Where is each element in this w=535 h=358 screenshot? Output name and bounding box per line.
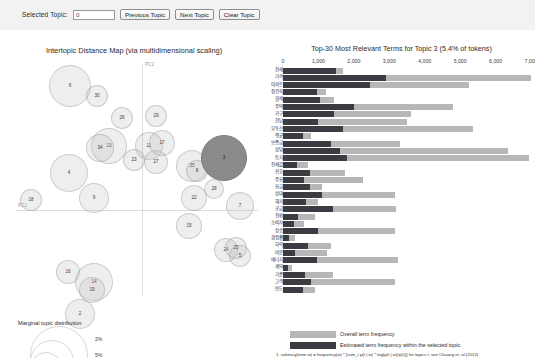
topic-bubble-28[interactable]: 28	[204, 179, 224, 199]
topic-bubble-label: 28	[211, 187, 216, 192]
within-topic-frequency-bar	[283, 75, 386, 81]
topic-bubble-30[interactable]: 30	[86, 85, 108, 107]
term-bar-row[interactable]: 마문	[268, 249, 535, 256]
term-bar-row[interactable]: 계약	[268, 264, 535, 271]
x-tick-5000: 5,000	[454, 58, 467, 64]
topic-bubble-29[interactable]: 29	[145, 105, 167, 127]
overall-frequency-bar	[283, 155, 529, 161]
term-label: 토지	[259, 155, 283, 161]
term-bar-row[interactable]: 토지	[268, 155, 535, 162]
next-topic-button[interactable]: Next Topic	[175, 9, 214, 20]
topic-bubble-18[interactable]: 18	[20, 189, 42, 211]
topic-bubble-4[interactable]: 4	[50, 154, 88, 192]
topic-bubble-34[interactable]: 34	[86, 134, 114, 162]
bar-chart-legend: Overall term frequency Estimated term fr…	[290, 330, 530, 352]
marginal-tick-5%: 5%	[95, 352, 102, 358]
topic-bubble-label: 34	[97, 146, 102, 151]
term-label: 하락	[259, 242, 283, 248]
topic-bubble-9[interactable]: 9	[79, 183, 109, 213]
term-label: 주요	[259, 177, 283, 183]
term-bar-row[interactable]: 상당	[268, 147, 535, 154]
term-bar-row[interactable]: 에너지	[268, 257, 535, 264]
term-bar-row[interactable]: 주택	[268, 103, 535, 110]
overall-frequency-bar	[283, 221, 304, 227]
term-bar-row[interactable]: 부동산	[268, 125, 535, 132]
term-bar-row[interactable]: 월세	[268, 96, 535, 103]
topic-bubble-6[interactable]: 6	[49, 65, 91, 107]
term-bar-row[interactable]: 평균	[268, 133, 535, 140]
term-bar-row[interactable]: 하락	[268, 242, 535, 249]
overall-frequency-bar	[283, 192, 395, 198]
term-bar-row[interactable]: 전세	[268, 67, 535, 74]
x-tick-4000: 4,000	[418, 58, 431, 64]
right-control-bar: Slide to adjust relevance metric:(2) λ =…	[268, 0, 535, 31]
topic-bubble-26[interactable]: 26	[111, 107, 133, 129]
term-bar-row[interactable]: 빈도	[268, 286, 535, 293]
within-topic-frequency-bar	[283, 119, 318, 125]
legend-within-swatch	[290, 342, 336, 349]
topic-bubble-3[interactable]: 3	[201, 135, 247, 181]
topic-bubble-15[interactable]: 15	[176, 213, 202, 239]
term-label: 정건축	[259, 89, 283, 95]
term-bar-row[interactable]: 상태	[268, 191, 535, 198]
within-topic-frequency-bar	[283, 250, 295, 256]
term-label: 보증금	[259, 140, 283, 146]
term-label: 상태	[259, 191, 283, 197]
term-bar-list: 전세가격아파트정건축월세주택가구전남부동산평균보증금상당토지전세값선호주요요금상…	[268, 67, 535, 293]
term-bar-row[interactable]: 기준	[268, 271, 535, 278]
term-bar-row[interactable]: 전환	[268, 213, 535, 220]
term-bar-row[interactable]: 보증금	[268, 140, 535, 147]
term-bar-row[interactable]: 아파트	[268, 82, 535, 89]
topic-bubble-label: 3	[223, 156, 226, 161]
term-bar-row[interactable]: 경정률	[268, 235, 535, 242]
topic-bubble-label: 4	[68, 171, 71, 176]
selected-topic-input[interactable]	[73, 10, 115, 20]
within-topic-frequency-bar	[283, 192, 322, 198]
x-tick-0: 0	[282, 58, 285, 64]
term-bar-row[interactable]: 공급	[268, 206, 535, 213]
term-bar-row[interactable]: 전남	[268, 118, 535, 125]
term-label: 평균	[259, 133, 283, 139]
overall-frequency-bar	[283, 111, 411, 117]
term-bar-row[interactable]: 전세값	[268, 162, 535, 169]
previous-topic-button[interactable]: Previous Topic	[120, 9, 170, 20]
overall-frequency-bar	[283, 141, 400, 147]
pc2-axis-label: PC2	[145, 62, 154, 67]
term-bar-row[interactable]: 선호	[268, 169, 535, 176]
overall-frequency-bar	[283, 272, 333, 278]
topic-bubble-23[interactable]: 23	[123, 149, 145, 171]
within-topic-frequency-bar	[283, 221, 294, 227]
term-bar-row[interactable]: 소비자	[268, 220, 535, 227]
clear-topic-button[interactable]: Clear Topic	[219, 9, 260, 20]
topic-bubble-label: 30	[94, 94, 99, 99]
left-control-bar: Selected Topic: Previous Topic Next Topi…	[0, 0, 268, 31]
term-label: 에너지	[259, 257, 283, 263]
topic-bubble-22[interactable]: 22	[181, 185, 207, 211]
term-bar-row[interactable]: 가구	[268, 111, 535, 118]
within-topic-frequency-bar	[283, 111, 334, 117]
intertopic-distance-panel: Intertopic Distance Map (via multidimens…	[0, 30, 268, 358]
within-topic-frequency-bar	[283, 206, 333, 212]
within-topic-frequency-bar	[283, 170, 310, 176]
topic-bubble-5[interactable]: 5	[229, 245, 251, 267]
pc1-axis-line	[16, 210, 258, 211]
intertopic-scatter-plot[interactable]: PC2 PC1 63026291334111727234918358328227…	[12, 58, 260, 308]
term-bar-row[interactable]: 주요	[268, 176, 535, 183]
topic-bubble-label: 23	[131, 158, 136, 163]
marginal-tick-2%: 2%	[95, 336, 102, 342]
topic-bubble-7[interactable]: 7	[226, 192, 254, 220]
topic-bubble-27[interactable]: 27	[144, 150, 168, 174]
term-label: 전세	[259, 67, 283, 73]
term-bar-row[interactable]: 정건축	[268, 89, 535, 96]
term-bar-row[interactable]: 상승	[268, 228, 535, 235]
term-bar-row[interactable]: 요금	[268, 184, 535, 191]
term-bar-row[interactable]: 고객	[268, 279, 535, 286]
topic-controls: Selected Topic: Previous Topic Next Topi…	[22, 9, 260, 20]
term-bar-row[interactable]: 해지	[268, 198, 535, 205]
marginal-circle-10%	[30, 326, 88, 358]
term-bar-row[interactable]: 가격	[268, 74, 535, 81]
topic-bubble-label: 19	[89, 288, 94, 293]
overall-frequency-bar	[283, 89, 326, 95]
overall-frequency-bar	[283, 68, 343, 74]
term-label: 해지	[259, 199, 283, 205]
